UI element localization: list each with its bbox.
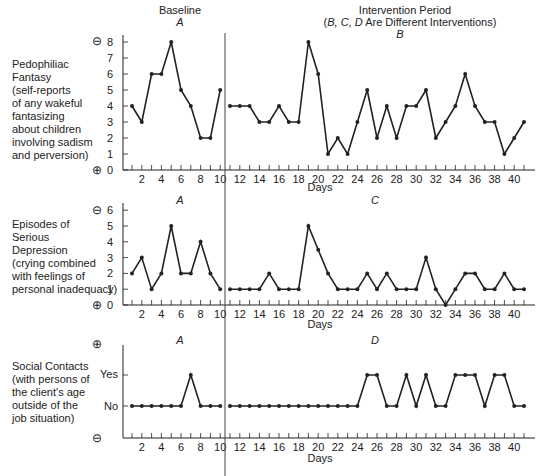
y-tick-label: 4 (107, 236, 113, 248)
data-point (375, 287, 379, 291)
x-tick-label: 28 (390, 173, 402, 185)
data-point (473, 271, 477, 275)
data-point (326, 271, 330, 275)
data-point (346, 404, 350, 408)
x-tick-label: 16 (273, 173, 285, 185)
data-point (424, 373, 428, 377)
data-point (306, 404, 310, 408)
y-tick-label: 7 (107, 52, 113, 64)
data-point (130, 104, 134, 108)
data-point (316, 248, 320, 252)
data-point (189, 271, 193, 275)
data-point (208, 404, 212, 408)
x-tick-label: 24 (351, 173, 363, 185)
data-point (150, 72, 154, 76)
data-point (365, 271, 369, 275)
data-point (483, 404, 487, 408)
data-point (444, 404, 448, 408)
x-tick-label: 14 (253, 441, 265, 453)
data-point (502, 152, 506, 156)
x-tick-label: 16 (273, 308, 285, 320)
data-point (444, 303, 448, 307)
x-tick-label: 36 (469, 441, 481, 453)
data-point (336, 287, 340, 291)
data-point (395, 404, 399, 408)
data-point (453, 373, 457, 377)
x-tick-label: 2 (139, 441, 145, 453)
data-point (414, 404, 418, 408)
x-tick-label: 34 (449, 308, 461, 320)
data-point (512, 404, 516, 408)
x-tick-label: 26 (371, 173, 383, 185)
data-point (404, 104, 408, 108)
chart-canvas: 2468101214161820222426283032343638400123… (0, 0, 543, 476)
x-tick-label: 2 (139, 308, 145, 320)
y-tick-label: 2 (107, 267, 113, 279)
x-tick-label: 4 (158, 308, 164, 320)
data-point (257, 287, 261, 291)
x-tick-label: 32 (430, 173, 442, 185)
data-point (473, 373, 477, 377)
data-point (150, 287, 154, 291)
x-tick-label: 12 (234, 441, 246, 453)
x-tick-label: 8 (198, 441, 204, 453)
x-tick-label: 26 (371, 308, 383, 320)
x-tick-label: 38 (488, 308, 500, 320)
data-point (169, 224, 173, 228)
data-point (395, 287, 399, 291)
data-point (385, 104, 389, 108)
data-point (444, 120, 448, 124)
x-tick-label: 8 (198, 173, 204, 185)
data-point (159, 404, 163, 408)
data-point (365, 373, 369, 377)
y-tick-label: 6 (107, 68, 113, 80)
data-point (473, 104, 477, 108)
data-point (257, 404, 261, 408)
x-tick-label: 18 (292, 308, 304, 320)
x-tick-label: 6 (178, 441, 184, 453)
x-tick-label: 36 (469, 308, 481, 320)
data-point (267, 271, 271, 275)
data-point (248, 287, 252, 291)
data-point (150, 404, 154, 408)
data-point (277, 404, 281, 408)
data-point (277, 104, 281, 108)
data-point (522, 404, 526, 408)
data-point (502, 373, 506, 377)
y-tick-label: 0 (107, 299, 113, 311)
data-point (287, 287, 291, 291)
data-point (365, 88, 369, 92)
data-point (306, 40, 310, 44)
data-point (385, 404, 389, 408)
data-point (463, 72, 467, 76)
data-point (404, 287, 408, 291)
x-tick-label: 30 (410, 308, 422, 320)
data-point (326, 152, 330, 156)
y-tick-label: 3 (107, 252, 113, 264)
data-point (297, 120, 301, 124)
y-tick-label: 2 (107, 132, 113, 144)
x-tick-label: 20 (312, 441, 324, 453)
data-point (140, 120, 144, 124)
data-point (502, 271, 506, 275)
data-point (189, 104, 193, 108)
x-tick-label: 16 (273, 441, 285, 453)
data-point (169, 40, 173, 44)
data-point (199, 136, 203, 140)
data-point (306, 224, 310, 228)
data-point (297, 404, 301, 408)
x-tick-label: 4 (158, 441, 164, 453)
data-point (179, 404, 183, 408)
data-point (434, 136, 438, 140)
y-tick-label: 8 (107, 36, 113, 48)
data-point (208, 271, 212, 275)
x-tick-label: 14 (253, 173, 265, 185)
data-point (140, 404, 144, 408)
data-point (346, 152, 350, 156)
x-tick-label: 32 (430, 308, 442, 320)
x-tick-label: 22 (332, 173, 344, 185)
x-tick-label: 40 (508, 308, 520, 320)
x-tick-label: 30 (410, 173, 422, 185)
data-point (130, 404, 134, 408)
data-point (228, 287, 232, 291)
